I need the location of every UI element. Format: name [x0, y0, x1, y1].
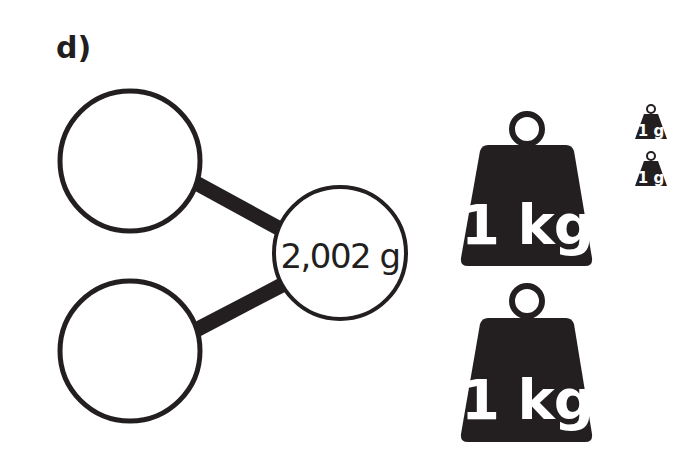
kilogram-weight-label: 1 kg	[461, 367, 593, 432]
kilogram-weight-icon: 1 kg	[461, 286, 593, 442]
kilogram-weight-label: 1 kg	[461, 192, 593, 257]
kilogram-weight-icon: 1 kg	[461, 114, 593, 266]
gram-weight-icon: 1 g	[635, 152, 667, 187]
gram-weight-label: 1 g	[638, 169, 664, 187]
connector-bottom	[196, 285, 282, 330]
diagram: d) 2,002 g 1 kg 1 kg 1 g	[0, 0, 699, 473]
gram-weight-label: 1 g	[638, 122, 664, 140]
part-circle-top[interactable]	[60, 91, 200, 231]
whole-value: 2,002 g	[280, 236, 399, 276]
part-circle-bottom[interactable]	[60, 281, 200, 421]
gram-weight-icon: 1 g	[635, 105, 667, 140]
part-whole-diagram: 2,002 g 1 kg 1 kg 1 g 1 g	[0, 0, 699, 473]
connector-top	[196, 183, 282, 230]
